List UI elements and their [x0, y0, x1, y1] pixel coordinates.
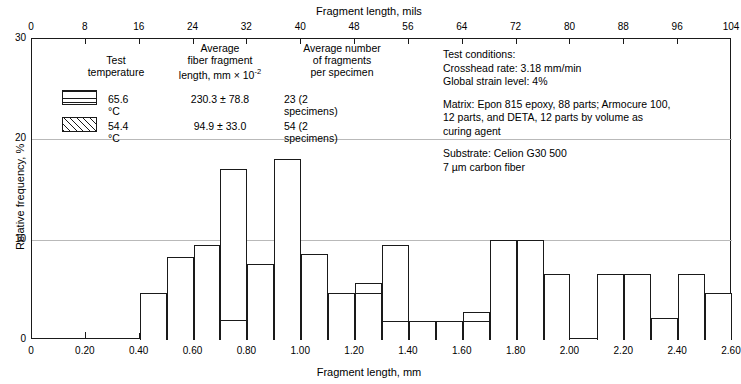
- note-line: Matrix: Epon 815 epoxy, 88 parts; Armocu…: [443, 98, 670, 112]
- axis-tick-label: 0.80: [237, 345, 256, 356]
- legend-header-line: Test: [76, 54, 156, 66]
- histogram-bar: [678, 274, 705, 340]
- axis-tick-label: 1.40: [398, 345, 417, 356]
- note-line: 7 µm carbon fiber: [443, 161, 670, 175]
- histogram-bar: [328, 293, 355, 340]
- histogram-bar: [140, 293, 167, 340]
- legend-header-line: fiber fragment: [162, 54, 278, 66]
- axis-tick-label: 32: [241, 21, 252, 32]
- axis-tick-label: 8: [82, 21, 88, 32]
- axis-tick-label: 0: [28, 345, 34, 356]
- axis-tick-label: 1.80: [506, 345, 525, 356]
- histogram-bar: [544, 274, 571, 340]
- histogram-bar: [651, 318, 678, 340]
- axis-tick-label: 1.60: [452, 345, 471, 356]
- histogram-bar: [517, 240, 544, 340]
- histogram-bar: [301, 254, 328, 340]
- histogram-bar: [705, 293, 732, 340]
- x-axis-title: Fragment length, mm: [0, 366, 738, 378]
- histogram-bar: [436, 321, 463, 340]
- axis-tick-label: 104: [723, 21, 740, 32]
- axis-tick-label: 56: [402, 21, 413, 32]
- y-axis-tick-label: 10: [2, 233, 26, 244]
- note-line: Test conditions:: [443, 48, 670, 62]
- legend-header-line: length, mm × 10-2: [162, 66, 278, 81]
- histogram-bar: [490, 240, 517, 340]
- axis-tick-label: 0.20: [75, 345, 94, 356]
- axis-tick-label: 0: [28, 21, 34, 32]
- legend-cell-avg-fragments: 23 (2 specimens): [284, 93, 338, 117]
- y-axis-tick-label: 30: [2, 32, 26, 43]
- legend-cell-avg-length: 230.3 ± 78.8: [170, 93, 270, 105]
- axis-tick-label: 88: [618, 21, 629, 32]
- legend-header-line: temperature: [76, 66, 156, 78]
- legend-header-avg-fiber-fragment-length: Average fiber fragment length, mm × 10-2: [162, 42, 278, 81]
- axis-tick-label: 1.00: [290, 345, 309, 356]
- legend-cell-avg-fragments: 54 (2 specimens): [284, 120, 338, 144]
- axis-tick-label: 2.00: [560, 345, 579, 356]
- axis-tick-label: 2.40: [667, 345, 686, 356]
- legend-header-line: Average number: [284, 42, 400, 54]
- axis-tick-label: 24: [187, 21, 198, 32]
- axis-tick-label: 80: [564, 21, 575, 32]
- histogram-bar: [220, 320, 247, 340]
- histogram-bar: [194, 245, 221, 340]
- legend-header-avg-number-fragments: Average number of fragments per specimen: [284, 42, 400, 78]
- histogram-bar: [409, 321, 436, 340]
- legend-header-line: of fragments: [284, 54, 400, 66]
- legend-header-exponent: -2: [254, 67, 261, 76]
- legend-header-line: per specimen: [284, 66, 400, 78]
- axis-tick-label: 48: [349, 21, 360, 32]
- note-line: Global strain level: 4%: [443, 75, 670, 89]
- legend-swatch-54-4c: [62, 117, 97, 132]
- legend-header-length-units: length, mm × 10: [179, 69, 255, 81]
- histogram-bar: [463, 321, 490, 340]
- axis-tick-label: 0.40: [129, 345, 148, 356]
- axis-tick-label: 96: [672, 21, 683, 32]
- legend-cell-avg-length: 94.9 ± 33.0: [170, 120, 270, 132]
- note-line: Crosshead rate: 3.18 mm/min: [443, 62, 670, 76]
- legend-header-test-temperature: Test temperature: [76, 54, 156, 78]
- axis-tick-label: 16: [133, 21, 144, 32]
- axis-tick-label: 64: [456, 21, 467, 32]
- histogram-bar: [167, 257, 194, 340]
- axis-tick-label: 72: [510, 21, 521, 32]
- axis-tick-label: 40: [295, 21, 306, 32]
- top-axis-title: Fragment length, mils: [0, 5, 738, 17]
- histogram-bar: [220, 169, 247, 340]
- y-axis-tick-label: 0: [2, 333, 26, 344]
- histogram-bar: [355, 293, 382, 340]
- histogram-bar: [274, 159, 301, 340]
- legend-swatch-65-6c: [62, 90, 97, 105]
- note-line: curing agent: [443, 125, 670, 139]
- histogram-bar: [624, 274, 651, 340]
- histogram-bar: [382, 321, 409, 340]
- axis-tick-label: 2.20: [614, 345, 633, 356]
- legend-cell-temp: 54.4 °C: [108, 120, 128, 144]
- axis-tick-label: 2.60: [721, 345, 740, 356]
- note-line: 12 parts, and DETA, 12 parts by volume a…: [443, 111, 670, 125]
- note-test-conditions: Test conditions: Crosshead rate: 3.18 mm…: [443, 48, 670, 89]
- histogram-bar: [597, 274, 624, 340]
- note-substrate: Substrate: Celion G30 500 7 µm carbon fi…: [443, 147, 670, 174]
- axis-tick-label: 1.20: [344, 345, 363, 356]
- notes-panel: Test conditions: Crosshead rate: 3.18 mm…: [443, 48, 670, 183]
- histogram-bar: [247, 264, 274, 340]
- note-matrix: Matrix: Epon 815 epoxy, 88 parts; Armocu…: [443, 98, 670, 139]
- y-axis-tick-label: 20: [2, 132, 26, 143]
- legend-cell-temp: 65.6 °C: [108, 93, 128, 117]
- legend-header-line: Average: [162, 42, 278, 54]
- axis-tick-label: 0.60: [183, 345, 202, 356]
- note-line: Substrate: Celion G30 500: [443, 147, 670, 161]
